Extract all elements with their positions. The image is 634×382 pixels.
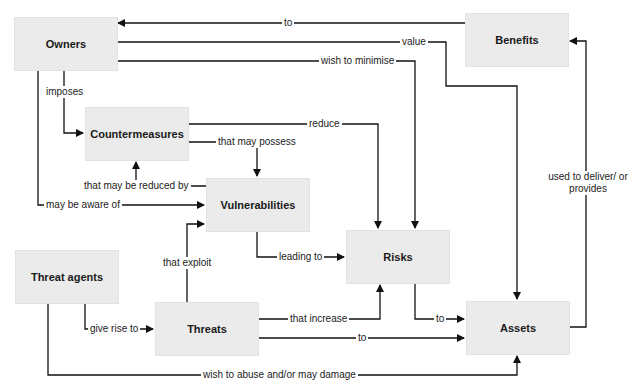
edge-label-value: value — [400, 36, 428, 48]
edge-label-wish-to-minimise: wish to minimise — [319, 55, 396, 67]
node-owners-label: Owners — [46, 38, 86, 50]
node-risks: Risks — [346, 230, 450, 284]
node-threat-agents-label: Threat agents — [31, 271, 103, 283]
node-vulnerabilities-label: Vulnerabilities — [221, 199, 296, 211]
edge-label-leading-to: leading to — [277, 251, 324, 263]
edge-label-imposes: imposes — [44, 86, 85, 98]
node-owners: Owners — [14, 17, 118, 71]
node-benefits-label: Benefits — [495, 34, 538, 46]
edge-label-to-owners: to — [282, 17, 294, 29]
node-benefits: Benefits — [465, 13, 569, 67]
node-countermeasures-label: Countermeasures — [90, 128, 184, 140]
edge-label-wish-to-abuse: wish to abuse and/or may damage — [201, 369, 358, 381]
edge-label-may-be-aware-of: may be aware of — [44, 199, 122, 211]
node-assets-label: Assets — [500, 322, 536, 334]
edge-label-reduce: reduce — [307, 118, 342, 130]
edge-label-that-may-possess: that may possess — [216, 136, 298, 148]
node-vulnerabilities: Vulnerabilities — [206, 178, 310, 232]
node-countermeasures: Countermeasures — [85, 107, 189, 161]
edge-label-that-exploit: that exploit — [161, 257, 213, 269]
node-assets: Assets — [466, 301, 570, 355]
node-threat-agents: Threat agents — [15, 250, 119, 304]
edge-label-that-increase: that increase — [288, 313, 349, 325]
edge-label-risks-to-assets: to — [434, 313, 446, 325]
edge-label-that-may-be-reduced-by: that may be reduced by — [82, 180, 191, 192]
node-threats-label: Threats — [187, 323, 227, 335]
edge-label-used-to-deliver: used to deliver/ or provides — [546, 171, 630, 195]
node-risks-label: Risks — [383, 251, 412, 263]
edge-label-give-rise-to: give rise to — [88, 323, 140, 335]
edge-label-threats-to-assets: to — [356, 332, 368, 344]
node-threats: Threats — [155, 302, 259, 356]
